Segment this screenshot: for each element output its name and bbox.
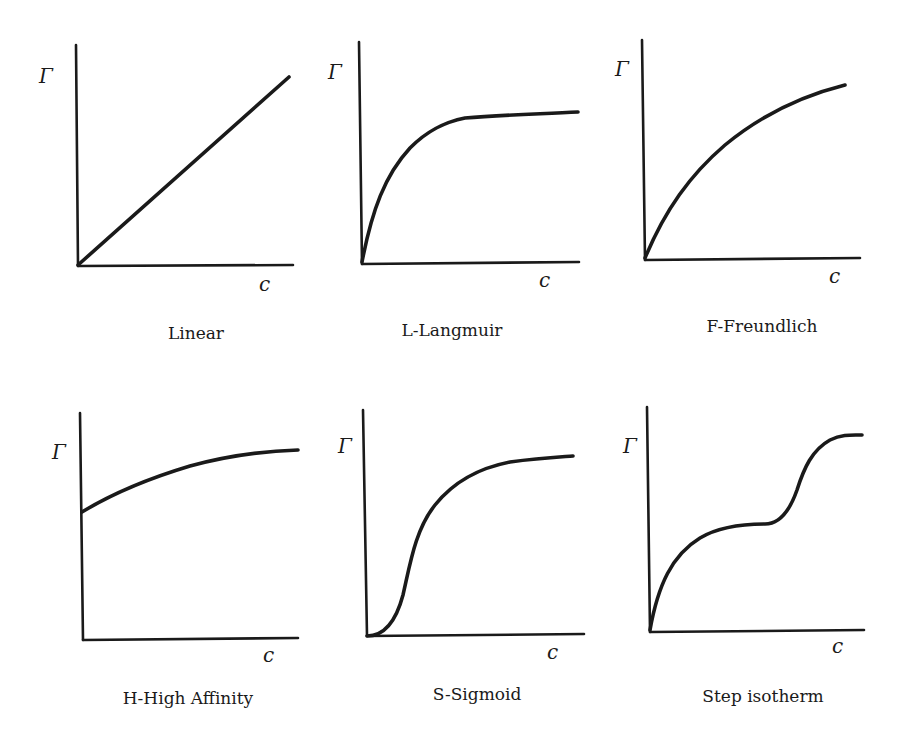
panel-title: L-Langmuir bbox=[402, 320, 504, 340]
y-axis-label: Γ bbox=[51, 440, 67, 464]
y-axis bbox=[80, 413, 83, 640]
panel-title: F-Freundlich bbox=[707, 316, 818, 336]
x-axis-label: c bbox=[539, 268, 550, 292]
y-axis bbox=[363, 410, 367, 636]
y-axis-label: Γ bbox=[622, 434, 638, 458]
x-axis bbox=[83, 638, 298, 640]
y-axis bbox=[76, 45, 78, 266]
y-axis bbox=[647, 407, 650, 632]
panel-title: Linear bbox=[168, 323, 225, 343]
panel-freundlich: Γ c F-Freundlich bbox=[614, 40, 860, 336]
y-axis-label: Γ bbox=[614, 57, 630, 81]
x-axis-label: c bbox=[259, 272, 270, 296]
y-axis-label: Γ bbox=[38, 64, 54, 88]
panel-sigmoid: Γ c S-Sigmoid bbox=[337, 410, 584, 704]
panel-linear: Γ c Linear bbox=[38, 45, 293, 343]
y-axis bbox=[359, 42, 362, 264]
isotherm-curve bbox=[82, 450, 298, 512]
y-axis-label: Γ bbox=[327, 60, 343, 84]
panel-high-affinity: Γ c H-High Affinity bbox=[51, 413, 298, 708]
isotherm-curve bbox=[78, 77, 289, 265]
x-axis bbox=[367, 634, 584, 636]
panel-step: Γ c Step isotherm bbox=[622, 407, 864, 706]
x-axis-label: c bbox=[829, 264, 840, 288]
isotherm-figure: Γ c Linear Γ c L-Langmuir Γ c F-Freundli… bbox=[0, 0, 903, 743]
x-axis-label: c bbox=[263, 643, 274, 667]
isotherm-curve bbox=[645, 85, 845, 258]
x-axis bbox=[645, 258, 860, 260]
y-axis-label: Γ bbox=[337, 434, 353, 458]
isotherm-curve bbox=[650, 435, 862, 630]
x-axis-label: c bbox=[832, 634, 843, 658]
x-axis bbox=[362, 262, 579, 264]
isotherm-curve bbox=[367, 456, 573, 636]
panel-title: Step isotherm bbox=[702, 686, 823, 706]
isotherm-curve bbox=[362, 112, 578, 262]
panel-title: H-High Affinity bbox=[123, 688, 254, 708]
panel-title: S-Sigmoid bbox=[433, 684, 522, 704]
y-axis bbox=[642, 40, 645, 260]
x-axis-label: c bbox=[547, 640, 558, 664]
panel-langmuir: Γ c L-Langmuir bbox=[327, 42, 579, 340]
x-axis bbox=[78, 265, 293, 266]
x-axis bbox=[650, 630, 864, 632]
